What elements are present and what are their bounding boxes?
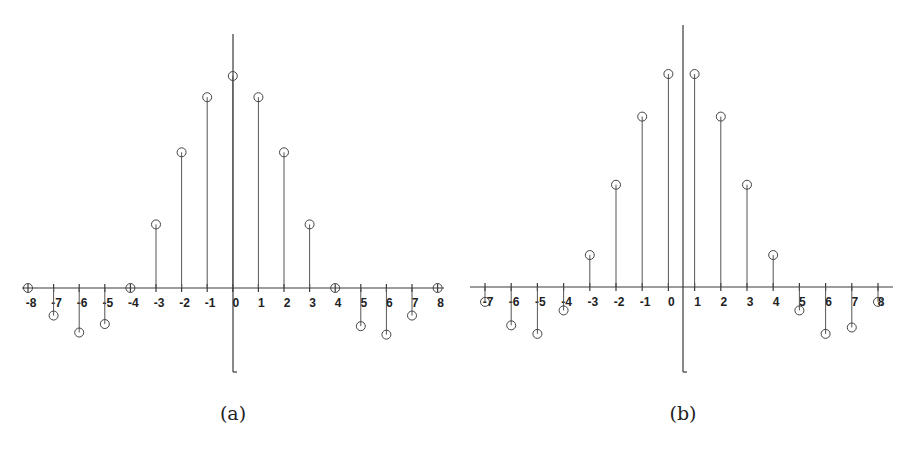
x-tick-label: 4 <box>773 295 780 309</box>
caption-b: (b) <box>670 402 697 424</box>
stem-plots-figure: -8-7-6-5-4-3-2-1012345678 -7-6-5-4-3-2-1… <box>0 0 914 458</box>
x-tick-label: -5 <box>102 296 113 310</box>
x-tick-label: -3 <box>587 295 598 309</box>
x-tick-label: -3 <box>154 296 165 310</box>
x-tick-label: 5 <box>360 296 367 310</box>
x-tick-label: -2 <box>614 295 625 309</box>
stem-plot-a: -8-7-6-5-4-3-2-1012345678 <box>22 34 444 372</box>
x-tick-label: 8 <box>437 296 444 310</box>
x-tick-label: 0 <box>668 295 675 309</box>
x-tick-label: -1 <box>640 295 651 309</box>
x-tick-label: 6 <box>825 295 832 309</box>
x-tick-label: 1 <box>258 296 265 310</box>
x-tick-label: 3 <box>747 295 754 309</box>
x-tick-label: 2 <box>284 296 291 310</box>
x-tick-label: 6 <box>386 296 393 310</box>
x-tick-label: -8 <box>26 296 37 310</box>
x-tick-label: -7 <box>51 296 62 310</box>
x-tick-label: 4 <box>335 296 342 310</box>
x-tick-label: 7 <box>412 296 419 310</box>
x-tick-label: 3 <box>309 296 316 310</box>
x-tick-label: -5 <box>535 295 546 309</box>
x-tick-label: -4 <box>128 296 139 310</box>
x-tick-label: -2 <box>179 296 190 310</box>
x-tick-label: 1 <box>694 295 701 309</box>
x-tick-label: -6 <box>509 295 520 309</box>
x-tick-label: 0 <box>232 296 239 310</box>
x-tick-label: -1 <box>205 296 216 310</box>
caption-a: (a) <box>220 402 246 424</box>
x-tick-label: 2 <box>720 295 727 309</box>
stem-plot-b: -7-6-5-4-3-2-1012345678 <box>470 25 893 372</box>
x-tick-label: -6 <box>77 296 88 310</box>
x-tick-label: 7 <box>851 295 858 309</box>
